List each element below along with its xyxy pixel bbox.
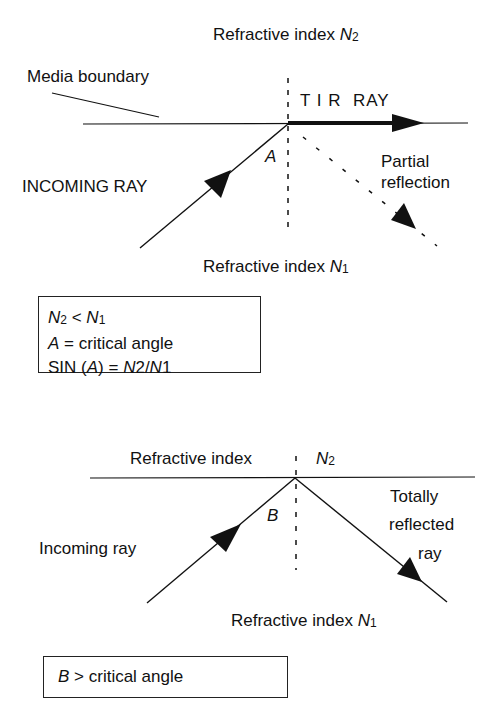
label-text: Refractive index (213, 25, 340, 44)
text: = critical angle (59, 334, 173, 353)
critical-angle-box: N2 < N1 A = critical angle SIN (A) = N2/… (38, 296, 261, 373)
label-n2-bottom: N2 (316, 450, 335, 467)
a-variable: A (48, 334, 59, 353)
incoming-arrow-icon (204, 170, 231, 198)
digit: 1 (162, 358, 171, 377)
subscript: 1 (342, 262, 349, 276)
subscript: 2 (60, 313, 67, 327)
n-variable: N (340, 25, 352, 44)
text: > critical angle (69, 667, 183, 686)
label-tir-ray: T I R RAY (300, 92, 390, 109)
label-reflected: reflected (389, 516, 454, 533)
text: SIN ( (48, 358, 87, 377)
label-incoming-ray-bottom: Incoming ray (39, 540, 136, 557)
text: ) = (98, 358, 123, 377)
label-partial: Partial (381, 153, 429, 170)
digit: 2 (135, 358, 144, 377)
n-variable: N (48, 308, 60, 327)
n-variable: N (316, 449, 328, 468)
label-media-boundary: Media boundary (27, 68, 149, 85)
partial-reflection-arrow-icon (391, 203, 416, 229)
label-angle-a: A (265, 148, 276, 165)
label-totally: Totally (390, 488, 438, 505)
incoming-arrow-icon-bottom (210, 524, 241, 552)
label-refractive-index-bottom: Refractive index (130, 450, 252, 467)
label-refractive-index-n2-top: Refractive index N2 (213, 26, 359, 43)
operator: < (67, 308, 86, 327)
box-line-n2-less-n1: N2 < N1 (48, 306, 260, 332)
n-variable: N (358, 611, 370, 630)
n-variable: N (330, 257, 342, 276)
box-line-a-critical: A = critical angle (48, 332, 260, 356)
subscript: 2 (352, 30, 359, 44)
tir-arrow-icon (392, 114, 424, 132)
label-refractive-index-n1-bottom: Refractive index N1 (231, 612, 377, 629)
a-variable: A (87, 358, 98, 377)
n-variable: N (150, 358, 162, 377)
n-variable: N (86, 308, 98, 327)
box-line-sin-formula: SIN (A) = N2/N1 (48, 356, 260, 380)
b-greater-critical-box: B > critical angle (43, 656, 288, 698)
subscript: 1 (370, 616, 377, 630)
label-angle-b: B (267, 507, 278, 524)
subscript: 2 (328, 454, 335, 468)
box-line-b-greater: B > critical angle (58, 665, 287, 689)
n-variable: N (123, 358, 135, 377)
label-text: Refractive index (231, 611, 358, 630)
label-refractive-index-n1-top: Refractive index N1 (203, 258, 349, 275)
boundary-leader-line (52, 93, 159, 117)
label-reflection: reflection (381, 174, 450, 191)
label-incoming-ray: INCOMING RAY (22, 178, 147, 195)
boundary-line-bottom (90, 477, 475, 478)
label-ray: ray (418, 545, 442, 562)
b-variable: B (58, 667, 69, 686)
subscript: 1 (99, 313, 106, 327)
label-text: Refractive index (203, 257, 330, 276)
